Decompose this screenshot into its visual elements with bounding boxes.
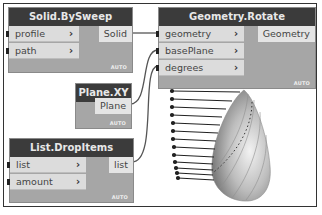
wire-list-to-degrees[interactable]	[132, 66, 158, 162]
run-mode-label: AUTO	[294, 80, 310, 86]
run-mode-label: AUTO	[110, 120, 126, 126]
input-port-degrees[interactable]: degrees ›	[159, 60, 244, 76]
port-label: amount	[16, 176, 53, 187]
output-port-plane[interactable]: Plane	[95, 98, 131, 114]
node-title: Solid.BySweep	[9, 8, 132, 26]
input-port-profile[interactable]: profile ›	[9, 26, 79, 42]
port-pin	[7, 162, 10, 168]
port-pin	[6, 31, 9, 37]
node-solid-bysweep[interactable]: Solid.BySweep profile › path › Solid AUT…	[8, 7, 133, 73]
chevron-right-icon: ›	[234, 60, 238, 76]
port-pin	[156, 65, 159, 71]
port-pin	[6, 48, 9, 54]
port-label: basePlane	[165, 45, 214, 56]
input-port-baseplane[interactable]: basePlane ›	[159, 43, 244, 59]
port-label: path	[15, 45, 37, 56]
chevron-right-icon: ›	[76, 157, 80, 173]
port-pin	[156, 31, 159, 37]
node-title: List.DropItems	[10, 139, 133, 157]
chevron-right-icon: ›	[234, 26, 238, 42]
port-label: list	[16, 159, 30, 170]
node-geometry-rotate[interactable]: Geometry.Rotate geometry › basePlane › d…	[158, 7, 316, 89]
port-pin	[7, 179, 10, 185]
geometry-preview	[212, 90, 270, 201]
output-port-solid[interactable]: Solid	[99, 26, 132, 42]
chevron-right-icon: ›	[234, 43, 238, 59]
chevron-right-icon: ›	[76, 174, 80, 190]
node-list-dropitems[interactable]: List.DropItems list › amount › list AUTO	[9, 138, 134, 203]
input-port-list[interactable]: list ›	[10, 157, 86, 173]
port-label: profile	[15, 28, 45, 39]
run-mode-label: AUTO	[111, 64, 127, 70]
chevron-right-icon: ›	[69, 43, 73, 59]
input-port-amount[interactable]: amount ›	[10, 174, 86, 190]
port-label: geometry	[165, 28, 211, 39]
input-port-path[interactable]: path ›	[9, 43, 79, 59]
port-pin	[156, 48, 159, 54]
node-title: Geometry.Rotate	[159, 8, 315, 26]
node-plane-xy[interactable]: Plane.XY Plane AUTO	[75, 83, 132, 129]
run-mode-label: AUTO	[112, 194, 128, 200]
input-port-geometry[interactable]: geometry ›	[159, 26, 244, 42]
output-port-list[interactable]: list	[109, 157, 133, 173]
output-port-geometry[interactable]: Geometry	[258, 26, 315, 42]
wire-plane-to-baseplane[interactable]	[130, 50, 158, 104]
chevron-right-icon: ›	[69, 26, 73, 42]
port-label: degrees	[165, 62, 203, 73]
